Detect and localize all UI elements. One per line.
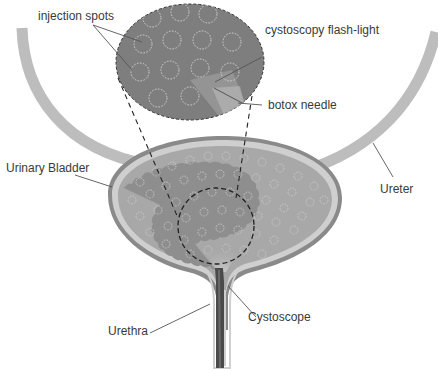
cystoscope — [215, 268, 224, 368]
label-cystoscopy-flashlight: cystoscopy flash-light — [265, 23, 380, 37]
label-injection-spots: injection spots — [38, 9, 114, 23]
magnified-view — [116, 3, 264, 120]
label-ureter: Ureter — [380, 182, 413, 196]
label-cystoscope: Cystoscope — [248, 310, 311, 324]
label-urethra: Urethra — [108, 324, 148, 338]
label-botox-needle: botox needle — [268, 98, 337, 112]
label-urinary-bladder: Urinary Bladder — [6, 161, 89, 175]
bladder-diagram: injection spots cystoscopy flash-light b… — [0, 0, 438, 369]
